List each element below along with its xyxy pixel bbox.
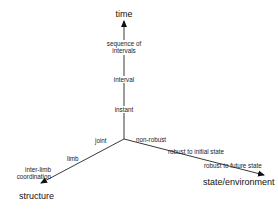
tick-sequence-line1: sequence of <box>107 40 141 47</box>
tick-instant: instant <box>114 106 135 113</box>
structure-axis <box>41 139 124 183</box>
tick-limb: limb <box>67 155 79 162</box>
tick-interlimb-line2: coordination <box>17 173 51 180</box>
state-axis <box>124 139 264 175</box>
tick-robust-to-future-state: robust to future state <box>204 162 262 169</box>
tick-interval: interval <box>113 76 135 83</box>
tick-robust-to-initial-state: robust to initial state <box>168 148 224 155</box>
tick-sequence-line2: intervals <box>107 47 141 54</box>
state-axis-label: state/environment <box>203 177 275 187</box>
tick-non-robust: non-robust <box>136 136 166 143</box>
tick-joint: joint <box>95 137 107 144</box>
tick-inter-limb-coordination: inter-limb coordination <box>17 166 51 181</box>
time-axis-label: time <box>115 9 132 19</box>
tick-interlimb-line1: inter-limb <box>17 166 51 173</box>
tick-sequence-of-intervals: sequence of intervals <box>106 40 142 55</box>
structure-axis-label: structure <box>19 191 54 201</box>
